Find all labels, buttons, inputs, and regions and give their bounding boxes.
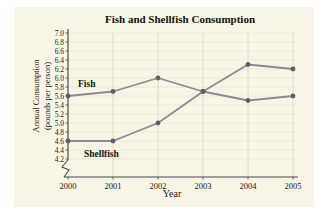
y-tick-label: 6.4 — [55, 56, 65, 65]
y-tick-label: 7.0 — [55, 29, 65, 38]
y-tick-label: 4.6 — [55, 137, 65, 146]
x-tick-label: 2004 — [240, 181, 258, 191]
chart-title: Fish and Shellfish Consumption — [105, 13, 255, 25]
data-series — [66, 62, 296, 143]
y-axis-title-line1: Annual Consumption — [31, 59, 41, 133]
shellfish-data-point — [156, 121, 161, 126]
y-axis-title-line2: (pounds per person) — [42, 62, 52, 130]
y-tick-label: 5.0 — [55, 119, 65, 128]
y-tick-label: 6.2 — [55, 65, 65, 74]
y-tick-label: 4.2 — [55, 155, 65, 164]
y-tick-label: 6.0 — [55, 74, 65, 83]
y-tick-label: 5.8 — [55, 83, 65, 92]
shellfish-data-point — [201, 89, 206, 94]
y-tick-label: 6.8 — [55, 38, 65, 47]
y-tick-label: 6.6 — [55, 47, 65, 56]
x-tick-label: 2000 — [60, 181, 77, 191]
textbook-figure: 7.06.86.66.46.26.05.85.65.45.25.04.84.64… — [0, 0, 325, 222]
shellfish-data-point — [111, 139, 116, 144]
x-tick-label: 2001 — [105, 181, 122, 191]
y-tick-label: 5.2 — [55, 110, 65, 119]
shellfish-data-point — [291, 67, 296, 72]
fish-data-point — [291, 94, 296, 99]
y-tick-label: 5.6 — [55, 92, 65, 101]
fish-data-point — [246, 98, 251, 103]
y-tick-label: 4.4 — [55, 146, 65, 155]
fish-series-line — [68, 78, 293, 101]
fish-data-point — [156, 76, 161, 81]
fish-data-point — [66, 94, 71, 99]
shellfish-data-point — [66, 139, 71, 144]
x-tick-label: 2003 — [195, 181, 212, 191]
shellfish-series-line — [68, 65, 293, 142]
shellfish-data-point — [246, 62, 251, 67]
shellfish-series-label: Shellfish — [84, 149, 120, 159]
x-tick-label: 2005 — [285, 181, 302, 191]
consumption-chart: 7.06.86.66.46.26.05.85.65.45.25.04.84.64… — [0, 0, 325, 222]
y-tick-label: 4.8 — [55, 128, 65, 137]
x-axis-title: Year — [163, 188, 182, 199]
fish-series-label: Fish — [78, 79, 96, 89]
fish-data-point — [111, 89, 116, 94]
y-tick-label: 5.4 — [55, 101, 65, 110]
